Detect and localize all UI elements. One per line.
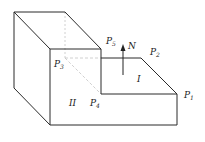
face-label-i: I bbox=[136, 74, 141, 84]
point-label-p3: P3 bbox=[53, 59, 64, 70]
point-label-p5: P5 bbox=[105, 36, 116, 47]
point-label-p1: P1 bbox=[183, 90, 194, 101]
face-label-ii: II bbox=[68, 98, 77, 108]
normal-vector-arrow bbox=[121, 44, 126, 75]
normal-label: N bbox=[127, 41, 137, 51]
point-label-p4: P4 bbox=[89, 98, 100, 109]
stepped-block-diagram: N P5 P2 P3 P4 P1 I II bbox=[0, 0, 205, 142]
point-label-p2: P2 bbox=[149, 47, 160, 58]
hidden-edges bbox=[65, 12, 101, 94]
